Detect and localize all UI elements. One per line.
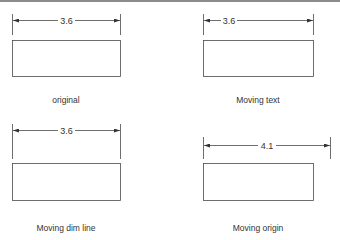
rectangle — [204, 164, 314, 201]
rectangle — [13, 41, 121, 77]
panel-original: 3.6 — [13, 14, 121, 77]
caption-moving-text: Moving text — [198, 95, 318, 105]
caption-moving-origin: Moving origin — [198, 223, 318, 233]
dimension-text: 3.6 — [60, 16, 73, 26]
dimension-diagram: 3.6 3.6 3.6 4.1 — [0, 0, 340, 240]
rectangle — [204, 41, 314, 77]
panel-moving-dim-line: 3.6 — [13, 124, 121, 201]
caption-moving-dim-line: Moving dim line — [6, 223, 126, 233]
rectangle — [13, 164, 121, 201]
dimension-text: 4.1 — [261, 141, 274, 151]
dimension-text: 3.6 — [60, 126, 73, 136]
dimension-text: 3.6 — [223, 16, 236, 26]
caption-original: original — [6, 95, 126, 105]
panel-moving-text: 3.6 — [204, 14, 314, 77]
panel-moving-origin: 4.1 — [204, 137, 331, 201]
